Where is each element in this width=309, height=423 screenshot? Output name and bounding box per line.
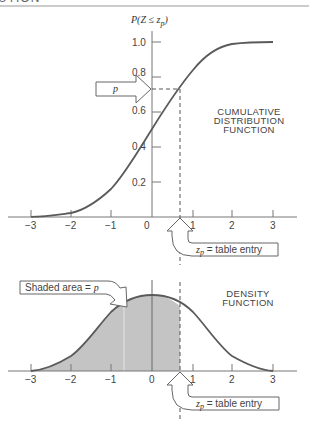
cdf-y-tick-label: 0.2 [132, 177, 146, 188]
svg-text:2: 2 [229, 220, 235, 231]
p-arrow-label: p [112, 83, 118, 94]
cdf-y-tick-label: 1.0 [132, 37, 146, 48]
cdf-x-tick-labels: −3 −2 −1 0 1 2 3 [25, 220, 276, 231]
svg-text:3: 3 [270, 374, 276, 385]
svg-text:2: 2 [229, 374, 235, 385]
pdf-shaded-area [31, 295, 180, 371]
p-arrow: p [96, 75, 151, 103]
svg-text:−1: −1 [105, 374, 117, 385]
svg-text:−2: −2 [65, 220, 77, 231]
shaded-area-label: Shaded area = p [25, 282, 99, 293]
svg-text:−3: −3 [25, 374, 37, 385]
pdf-x-tick-labels: −3 −2 −1 0 1 2 3 [25, 374, 276, 385]
svg-text:−1: −1 [105, 220, 117, 231]
pdf-zp-callout: zp = table entry [167, 372, 279, 411]
shaded-area-callout: Shaded area = p [20, 281, 127, 307]
cdf-y-tick-label: 0.8 [132, 67, 146, 78]
cdf-y-tick-label: 0.6 [132, 105, 146, 116]
svg-text:0: 0 [149, 374, 155, 385]
svg-text:FUNCTION: FUNCTION [223, 124, 274, 135]
svg-text:−3: −3 [25, 220, 37, 231]
pdf-chart: −3 −2 −1 0 1 2 3 Shaded area = p DENSITY… [8, 280, 297, 421]
svg-text:−2: −2 [65, 374, 77, 385]
cdf-zp-callout: zp = table entry [167, 218, 278, 257]
svg-text:0: 0 [144, 220, 150, 231]
svg-text:3: 3 [270, 220, 276, 231]
svg-text:FUNCTION: FUNCTION [222, 297, 273, 308]
cdf-y-axis-label: P(Z ≤ zp) [130, 14, 168, 28]
pdf-title: DENSITY FUNCTION [222, 288, 273, 308]
cdf-title: CUMULATIVE DISTRIBUTION FUNCTION [214, 106, 285, 135]
cdf-chart: P(Z ≤ zp) 1.0 0.8 0.6 0.4 0.2 −3 [8, 14, 297, 265]
cdf-y-ticks: 1.0 0.8 0.6 0.4 0.2 [132, 37, 161, 188]
